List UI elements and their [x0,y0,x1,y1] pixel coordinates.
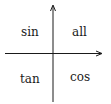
quadrant-label-bottom-right: cos [70,71,90,83]
quadrant-label-top-left: sin [21,26,39,38]
quadrant-label-bottom-left: tan [20,73,40,85]
quadrant-label-top-right: all [72,26,87,38]
axes [0,0,111,104]
